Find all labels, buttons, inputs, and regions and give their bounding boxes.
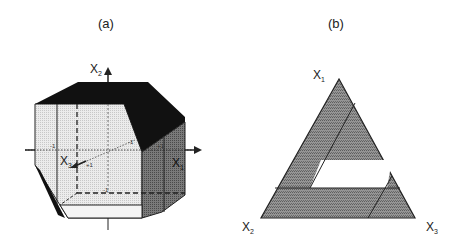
x2-axis-arrow xyxy=(104,67,112,75)
x1-axis-label: X1 xyxy=(172,156,184,171)
panel-a-cube-diagram xyxy=(0,0,459,248)
x3-axis-label: X3 xyxy=(60,154,72,169)
simplex-triangle xyxy=(261,79,415,218)
vertex-x1-label: X1 xyxy=(313,68,325,83)
panel-b-label: (b) xyxy=(328,16,344,31)
panel-a-label: (a) xyxy=(98,16,114,31)
cube-bottom-strip xyxy=(60,205,142,218)
vertex-x3-label: X3 xyxy=(426,220,438,235)
tick-x3-near: +1 xyxy=(86,162,93,168)
x2-axis-label: X2 xyxy=(90,62,102,77)
x1-axis-arrow xyxy=(194,146,202,154)
tick-x1-pos: +1 xyxy=(157,143,164,149)
tick-x1-neg: -1 xyxy=(50,143,55,149)
tick-x2-neg: -1 xyxy=(103,187,108,193)
cube-front-face xyxy=(35,104,142,218)
tick-x3-far: -1 xyxy=(128,139,133,145)
vertex-x2-label: X2 xyxy=(242,220,254,235)
figure: (a) (b) X2 X3 X1 -1 +1 +1 -1 -1 X1 X2 X3 xyxy=(0,0,459,248)
